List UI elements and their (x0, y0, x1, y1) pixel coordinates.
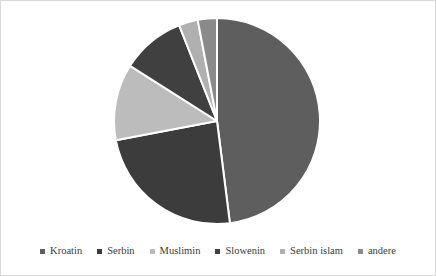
chart-legend: KroatinSerbinMusliminSloweninSerbin isla… (1, 237, 435, 265)
legend-item-muslimin[interactable]: Muslimin (150, 246, 201, 257)
pie-svg (113, 17, 321, 225)
pie-slice-group (114, 18, 320, 224)
square-marker-icon (215, 249, 220, 254)
pie-slice-kroatin[interactable] (217, 18, 320, 223)
square-marker-icon (97, 249, 102, 254)
square-marker-icon (40, 249, 45, 254)
legend-item-label: andere (368, 246, 396, 257)
legend-item-andere[interactable]: andere (358, 246, 396, 257)
legend-item-label: Serbin islam (290, 246, 343, 257)
square-marker-icon (150, 249, 155, 254)
legend-item-slowenin[interactable]: Slowenin (215, 246, 265, 257)
square-marker-icon (358, 249, 363, 254)
legend-item-label: Serbin (107, 246, 134, 257)
legend-item-serbin[interactable]: Serbin (97, 246, 134, 257)
legend-item-kroatin[interactable]: Kroatin (40, 246, 82, 257)
pie-plot-area (1, 1, 435, 229)
legend-item-label: Muslimin (160, 246, 201, 257)
square-marker-icon (280, 249, 285, 254)
legend-item-label: Kroatin (50, 246, 82, 257)
legend-item-serbin-islam[interactable]: Serbin islam (280, 246, 343, 257)
pie-chart-figure: KroatinSerbinMusliminSloweninSerbin isla… (0, 0, 436, 276)
legend-item-label: Slowenin (225, 246, 265, 257)
